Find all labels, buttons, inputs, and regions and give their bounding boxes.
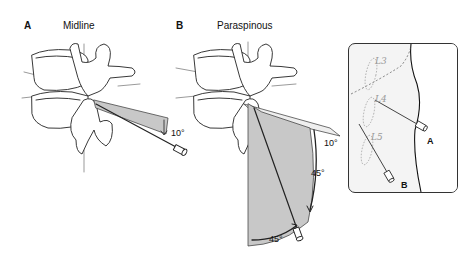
- panel-a-angle-10: 10°: [171, 128, 185, 138]
- inset-needle-b-label: B: [401, 180, 408, 190]
- panel-a-needle-hub: [173, 144, 188, 156]
- panel-b-angle-45-horizontal: 45°: [269, 234, 283, 244]
- inset-artwork: [349, 44, 457, 192]
- panel-b-needle-hub: [293, 227, 304, 242]
- inset-needle-a-label: A: [427, 136, 434, 146]
- panel-b-angle-45-vertical: 45°: [311, 168, 325, 178]
- inset-label-l3: L3: [375, 56, 387, 66]
- panel-b-angle-10: 10°: [324, 138, 338, 148]
- inset-label-l4: L4: [375, 94, 387, 104]
- inset-label-l5: L5: [371, 132, 383, 142]
- inset-posterior-view: L3 L4 L5 A B: [348, 43, 458, 193]
